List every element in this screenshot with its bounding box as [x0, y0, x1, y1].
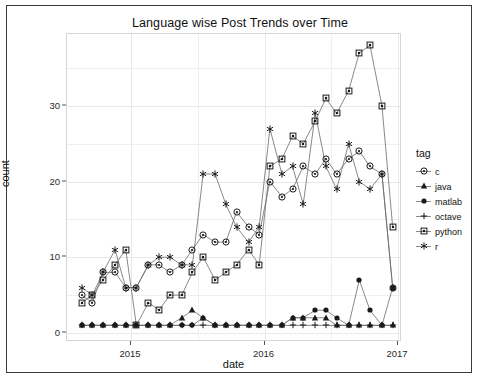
data-point-octave: [344, 321, 353, 330]
data-point-r: [131, 283, 141, 293]
data-point-octave: [311, 321, 320, 330]
legend-label: octave: [435, 212, 462, 222]
data-point-c: [277, 192, 286, 201]
data-point-python: [144, 298, 153, 307]
data-point-octave: [365, 321, 374, 330]
data-point-r: [177, 260, 187, 270]
data-point-python: [165, 291, 174, 300]
data-point-octave: [288, 321, 297, 330]
data-point-r: [310, 108, 320, 118]
legend-item-r[interactable]: r: [416, 239, 462, 254]
data-point-r: [87, 290, 97, 300]
data-point-octave: [111, 321, 120, 330]
data-point-r: [377, 169, 387, 179]
legend-title: tag: [416, 147, 462, 159]
legend-label: java: [435, 182, 452, 192]
data-point-r: [265, 124, 275, 134]
chart-figure: Language wise Post Trends over Time 0102…: [0, 0, 486, 385]
data-point-c: [288, 185, 297, 194]
data-point-c: [188, 245, 197, 254]
data-point-python: [321, 94, 330, 103]
data-point-r: [354, 177, 364, 187]
data-point-octave: [88, 321, 97, 330]
data-point-python: [277, 154, 286, 163]
data-point-python: [377, 101, 386, 110]
data-point-octave: [221, 321, 230, 330]
data-point-python: [77, 298, 86, 307]
data-point-r: [221, 199, 231, 209]
x-tick-mark: [264, 341, 265, 345]
data-point-octave: [277, 321, 286, 330]
data-point-python: [177, 291, 186, 300]
data-point-r: [77, 283, 87, 293]
data-point-c: [265, 177, 274, 186]
data-point-python: [299, 139, 308, 148]
data-point-python: [255, 260, 264, 269]
data-point-python: [288, 132, 297, 141]
series-lines: [67, 34, 400, 340]
data-point-octave: [188, 321, 197, 330]
y-tick-label: 20: [20, 175, 60, 186]
data-point-r: [98, 267, 108, 277]
y-tick-mark: [62, 331, 66, 332]
plot-area: [67, 34, 400, 340]
data-point-c: [211, 238, 220, 247]
data-point-c: [332, 170, 341, 179]
legend-item-octave[interactable]: octave: [416, 209, 462, 224]
figure-frame: Language wise Post Trends over Time 0102…: [6, 5, 472, 373]
x-tick-mark: [130, 341, 131, 345]
legend-marker-filled-circle-icon: [416, 194, 431, 209]
data-point-r: [110, 245, 120, 255]
plot-panel: [66, 33, 401, 341]
data-point-r: [321, 161, 331, 171]
data-point-python: [155, 306, 164, 315]
data-point-python: [365, 41, 374, 50]
legend-item-matlab[interactable]: matlab: [416, 194, 462, 209]
legend-item-java[interactable]: java: [416, 179, 462, 194]
data-point-r: [232, 222, 242, 232]
data-point-octave: [244, 321, 253, 330]
data-point-matlab: [311, 306, 320, 315]
data-point-octave: [199, 321, 208, 330]
data-point-octave: [165, 321, 174, 330]
data-point-matlab: [355, 275, 364, 284]
chart-title: Language wise Post Trends over Time: [7, 16, 473, 30]
data-point-octave: [355, 321, 364, 330]
data-point-python: [388, 222, 397, 231]
data-point-python: [355, 48, 364, 57]
legend-marker-plus-icon: [416, 209, 431, 224]
legend-item-c[interactable]: c: [416, 164, 462, 179]
data-point-octave: [332, 321, 341, 330]
data-point-c: [299, 162, 308, 171]
data-point-c: [344, 154, 353, 163]
data-point-c: [355, 147, 364, 156]
data-point-octave: [99, 321, 108, 330]
data-point-r: [254, 222, 264, 232]
legend-label: python: [435, 227, 462, 237]
data-point-python: [199, 253, 208, 262]
data-point-java: [188, 306, 197, 315]
data-point-r: [165, 252, 175, 262]
y-tick-label: 0: [20, 326, 60, 337]
data-point-c: [311, 170, 320, 179]
y-tick-label: 10: [20, 251, 60, 262]
y-tick-label: 30: [20, 99, 60, 110]
legend-label: r: [435, 242, 438, 252]
data-point-c: [165, 268, 174, 277]
data-point-r: [298, 199, 308, 209]
data-point-octave: [211, 321, 220, 330]
x-axis-label: date: [66, 358, 401, 370]
x-tick-mark: [397, 341, 398, 345]
data-point-r: [143, 260, 153, 270]
data-point-r: [210, 169, 220, 179]
data-point-python: [344, 86, 353, 95]
data-point-python: [332, 109, 341, 118]
data-point-r: [332, 184, 342, 194]
y-tick-mark: [62, 180, 66, 181]
data-point-python: [211, 275, 220, 284]
legend: tag cjavamatlaboctavepythonr: [416, 147, 462, 254]
legend-item-python[interactable]: python: [416, 224, 462, 239]
data-point-r: [277, 169, 287, 179]
data-point-octave: [299, 321, 308, 330]
data-point-c: [244, 222, 253, 231]
